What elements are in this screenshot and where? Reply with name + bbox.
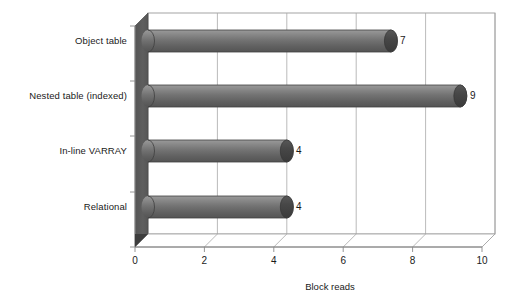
bar-chart: Object table Nested table (indexed) In-l… (0, 0, 515, 302)
value-label-object-table: 7 (400, 35, 406, 46)
category-label-object-table: Object table (0, 35, 127, 46)
category-label-inline-varray: In-line VARRAY (0, 145, 127, 156)
axis-floor (135, 234, 495, 247)
bar-object-table (142, 30, 398, 52)
category-label-nested-table-indexed: Nested table (indexed) (0, 90, 127, 101)
bar-inline-varray (142, 140, 294, 162)
value-label-inline-varray: 4 (296, 145, 302, 156)
x-tick-label-4: 4 (259, 255, 289, 266)
x-tick-label-0: 0 (120, 255, 150, 266)
x-axis-title: Block reads (265, 281, 395, 292)
bar-relational (142, 196, 294, 218)
value-label-relational: 4 (296, 201, 302, 212)
x-tick-label-8: 8 (398, 255, 428, 266)
value-label-nested-table-indexed: 9 (470, 90, 476, 101)
category-label-relational: Relational (0, 201, 127, 212)
x-tick-label-10: 10 (467, 255, 497, 266)
y-axis-ticks (130, 26, 135, 247)
x-tick-label-6: 6 (328, 255, 358, 266)
bar-nested-table-indexed (142, 85, 467, 107)
x-axis-ticks (135, 247, 482, 252)
x-tick-label-2: 2 (189, 255, 219, 266)
